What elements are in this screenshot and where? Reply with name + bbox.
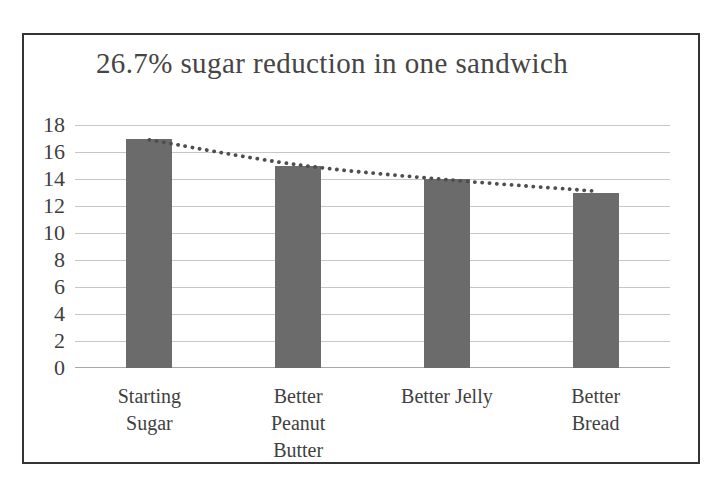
x-label-line: Better — [224, 383, 373, 410]
scanned-chart-figure: 26.7% sugar reduction in one sandwich 02… — [0, 0, 726, 494]
x-label-line: Sugar — [75, 410, 224, 437]
x-label-line: Better — [521, 383, 670, 410]
bar-cell-starting-sugar — [75, 125, 224, 368]
x-label-line: Bread — [521, 410, 670, 437]
bar-better-peanut-butter — [275, 166, 321, 369]
y-tick-label-0: 0 — [54, 357, 65, 379]
x-label-better-peanut-butter: BetterPeanutButter — [224, 383, 373, 464]
bar-cell-better-bread — [521, 125, 670, 368]
y-tick-label-4: 4 — [54, 303, 65, 325]
x-axis: StartingSugarBetterPeanutButterBetter Je… — [75, 383, 670, 464]
y-tick-label-16: 16 — [43, 141, 65, 163]
bar-cell-better-peanut-butter — [224, 125, 373, 368]
y-tick-label-6: 6 — [54, 276, 65, 298]
x-label-starting-sugar: StartingSugar — [75, 383, 224, 464]
plot-area — [75, 125, 670, 368]
x-label-line: Better Jelly — [373, 383, 522, 410]
y-tick-label-12: 12 — [43, 195, 65, 217]
y-tick-label-18: 18 — [43, 114, 65, 136]
x-label-line: Butter — [224, 437, 373, 464]
bar-cell-better-jelly — [373, 125, 522, 368]
x-label-line: Starting — [75, 383, 224, 410]
y-axis: 024681012141618 — [24, 125, 65, 368]
bar-starting-sugar — [126, 139, 172, 369]
x-label-better-bread: BetterBread — [521, 383, 670, 464]
chart-title: 26.7% sugar reduction in one sandwich — [24, 47, 640, 80]
bars — [75, 125, 670, 368]
y-tick-label-8: 8 — [54, 249, 65, 271]
bar-better-bread — [573, 193, 619, 369]
x-label-better-jelly: Better Jelly — [373, 383, 522, 464]
bar-better-jelly — [424, 179, 470, 368]
y-tick-label-10: 10 — [43, 222, 65, 244]
y-tick-label-14: 14 — [43, 168, 65, 190]
chart-frame: 26.7% sugar reduction in one sandwich 02… — [22, 33, 700, 464]
y-tick-label-2: 2 — [54, 330, 65, 352]
x-label-line: Peanut — [224, 410, 373, 437]
